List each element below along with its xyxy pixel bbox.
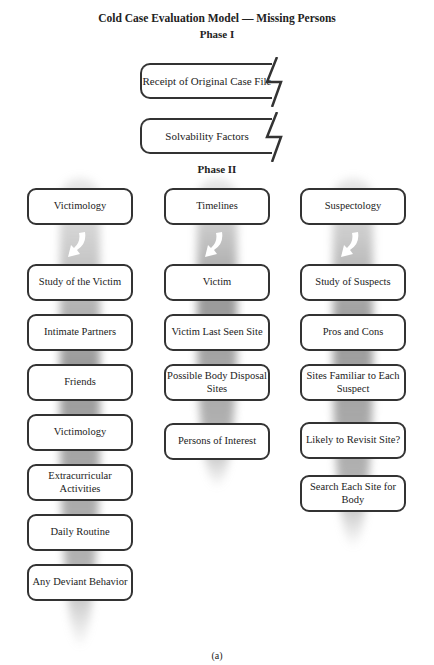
list-item: Likely to Revisit Site? xyxy=(300,422,406,459)
list-item: Possible Body Disposal Sites xyxy=(164,364,270,401)
list-item: Extracurricular Activities xyxy=(27,464,133,501)
suspectology-column: Suspectology Study of Suspects Pros and … xyxy=(300,0,406,665)
suspectology-header-box: Suspectology xyxy=(300,188,406,225)
timelines-column: Timelines Victim Victim Last Seen Site P… xyxy=(164,0,270,665)
victimology-column: Victimology Study of the Victim Intimate… xyxy=(27,0,133,665)
list-item: Pros and Cons xyxy=(300,314,406,351)
curved-arrow-icon xyxy=(65,230,95,260)
list-item: Victim Last Seen Site xyxy=(164,314,270,351)
list-item: Victim xyxy=(164,264,270,301)
list-item: Victimology xyxy=(27,414,133,451)
list-item: Sites Familiar to Each Suspect xyxy=(300,364,406,401)
list-item: Study of the Victim xyxy=(27,264,133,301)
list-item: Friends xyxy=(27,364,133,401)
list-item: Search Each Site for Body xyxy=(300,475,406,512)
victimology-header-box: Victimology xyxy=(27,188,133,225)
curved-arrow-icon xyxy=(338,230,368,260)
list-item: Study of Suspects xyxy=(300,264,406,301)
list-item: Persons of Interest xyxy=(164,423,270,460)
figure-caption: (a) xyxy=(0,650,434,661)
list-item: Daily Routine xyxy=(27,514,133,551)
curved-arrow-icon xyxy=(202,230,232,260)
list-item: Intimate Partners xyxy=(27,314,133,351)
list-item: Any Deviant Behavior xyxy=(27,564,133,601)
timelines-header-box: Timelines xyxy=(164,188,270,225)
